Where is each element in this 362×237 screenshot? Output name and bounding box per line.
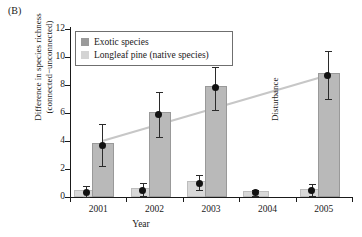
x-tick — [296, 197, 297, 202]
x-tick-label: 2001 — [73, 204, 123, 214]
x-tick-label: 2003 — [186, 204, 236, 214]
bar-exotic-2003 — [205, 86, 227, 197]
legend-swatch-exotic — [81, 38, 89, 46]
native-2003-mean-marker — [196, 180, 203, 187]
panel-label: (B) — [8, 5, 21, 16]
x-tick — [70, 197, 71, 202]
x-tick-label: 2002 — [130, 204, 180, 214]
native-2002-errorbar-cap — [140, 196, 147, 197]
x-tick — [239, 197, 240, 202]
x-tick — [126, 197, 127, 202]
native-2005-errorbar-cap — [309, 196, 316, 197]
y-tick-label-wrap: 0 — [36, 197, 65, 198]
x-tick-label: 2005 — [299, 204, 349, 214]
x-tick-label: 2004 — [242, 204, 292, 214]
legend-item-exotic: Exotic species — [81, 35, 227, 48]
exotic-2002-mean-marker — [155, 111, 162, 118]
disturbance-annotation: Disturbance — [270, 51, 280, 121]
native-2001-errorbar-cap — [83, 197, 90, 198]
native-2002-mean-marker — [139, 187, 146, 194]
exotic-2003-errorbar-cap — [212, 67, 219, 68]
exotic-2003-errorbar-cap — [212, 110, 219, 111]
exotic-2001-errorbar-cap — [99, 124, 106, 125]
native-2003-errorbar-cap — [196, 175, 203, 176]
bar-exotic-2005 — [318, 73, 340, 197]
native-2001-mean-marker — [83, 189, 90, 196]
legend-label-exotic: Exotic species — [94, 37, 149, 47]
exotic-2002-errorbar-cap — [156, 92, 163, 93]
exotic-2005-errorbar-cap — [325, 99, 332, 100]
exotic-2005-errorbar-cap — [325, 51, 332, 52]
bar-exotic-2002 — [149, 112, 171, 197]
native-2002-errorbar-cap — [140, 183, 147, 184]
exotic-2005-mean-marker — [324, 72, 331, 79]
bar-exotic-2001 — [92, 143, 114, 197]
y-axis-label-line2: (connected−unconnected) — [44, 0, 55, 147]
native-2001-errorbar-cap — [83, 186, 90, 187]
y-tick-label-wrap: 2 — [36, 169, 65, 170]
exotic-2003-mean-marker — [212, 84, 219, 91]
y-tick-label: 2 — [43, 164, 65, 174]
native-2005-errorbar-cap — [309, 184, 316, 185]
y-tick-label: 0 — [43, 192, 65, 202]
y-axis-label-line1: Difference in species richness — [33, 0, 44, 147]
native-2003-errorbar-cap — [196, 190, 203, 191]
exotic-2001-mean-marker — [99, 142, 106, 149]
x-tick — [352, 197, 353, 202]
legend-label-native: Longleaf pine (native species) — [94, 50, 209, 60]
y-axis-label: Difference in species richness (connecte… — [33, 0, 55, 147]
x-axis-label: Year — [101, 219, 181, 229]
exotic-2002-errorbar-cap — [156, 137, 163, 138]
chart-legend: Exotic species Longleaf pine (native spe… — [75, 31, 233, 66]
exotic-2001-errorbar-cap — [99, 166, 106, 167]
legend-swatch-native — [81, 51, 89, 59]
x-tick — [183, 197, 184, 202]
figure-panel-b: (B) 024681012 20012002200320042005 Diffe… — [0, 0, 362, 237]
legend-item-native: Longleaf pine (native species) — [81, 48, 227, 61]
